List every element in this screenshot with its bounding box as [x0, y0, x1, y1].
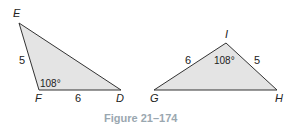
figure-canvas: E F D 5 6 108° I G H 6 5 108° Figure 21–…: [0, 0, 296, 128]
vertex-label-h: H: [275, 92, 283, 104]
angle-f-measure: 108°: [40, 78, 61, 89]
vertex-label-f: F: [35, 92, 43, 104]
angle-i-measure: 108°: [214, 55, 235, 66]
side-gi-length: 6: [185, 54, 191, 66]
side-ih-length: 5: [254, 54, 260, 66]
figure-caption: Figure 21–174: [104, 112, 178, 124]
vertex-label-i: I: [225, 28, 228, 40]
vertex-label-d: D: [116, 92, 124, 104]
vertex-label-g: G: [150, 92, 159, 104]
side-fd-length: 6: [75, 92, 81, 104]
vertex-label-e: E: [13, 7, 21, 19]
side-ef-length: 5: [19, 54, 25, 66]
triangle-efd: [19, 23, 121, 90]
triangle-gih: [154, 43, 277, 90]
